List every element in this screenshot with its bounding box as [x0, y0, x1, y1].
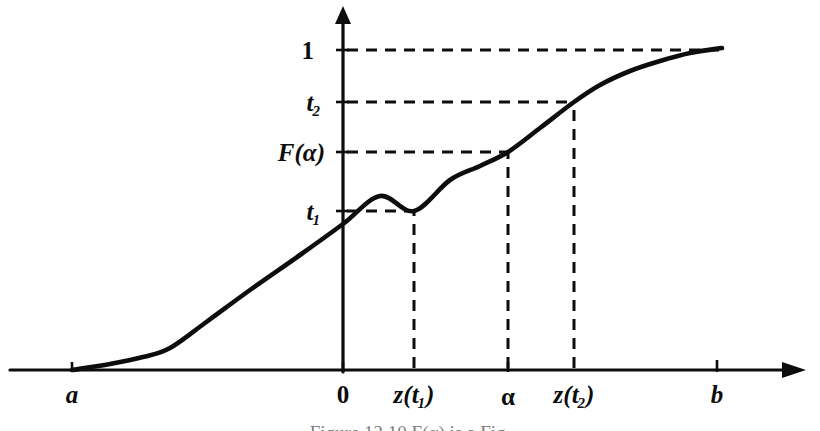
- y-axis-group: [335, 6, 351, 372]
- x-label-a: a: [66, 382, 79, 407]
- figure-caption: Figure 12.10 F(α) is a Fig.: [0, 422, 820, 431]
- x-label-z-t2-paren: ): [586, 381, 594, 408]
- x-axis-arrow-icon: [782, 362, 806, 378]
- y-label-t2-subscript: 2: [313, 103, 321, 119]
- x-label-b: b: [711, 382, 724, 407]
- x-label-z-t2-base: z(t: [554, 381, 579, 408]
- x-label-z-t1-base: z(t: [394, 381, 419, 408]
- y-label-one: 1: [302, 38, 315, 63]
- figure-container: 1 t2 F(α) t1 a 0 z(t1) α z(t2) b Figure …: [0, 0, 820, 431]
- x-label-z-t1-subscript: 1: [418, 395, 426, 411]
- vertical-guides: [414, 102, 574, 368]
- y-label-t1: t1: [307, 199, 321, 224]
- y-label-f-alpha: F(α): [278, 140, 325, 165]
- x-label-zero: 0: [337, 382, 350, 407]
- x-label-alpha: α: [501, 384, 515, 409]
- y-label-t1-subscript: 1: [313, 212, 321, 228]
- x-label-z-t2: z(t2): [554, 382, 595, 407]
- x-label-z-t2-subscript: 2: [578, 395, 586, 411]
- y-label-t2: t2: [307, 90, 321, 115]
- distribution-curve-F: [72, 48, 722, 370]
- y-axis-arrow-icon: [335, 6, 351, 24]
- x-label-z-t1: z(t1): [394, 382, 435, 407]
- figure-canvas: [0, 0, 820, 431]
- x-label-z-t1-paren: ): [426, 381, 434, 408]
- x-axis-group: [10, 362, 806, 378]
